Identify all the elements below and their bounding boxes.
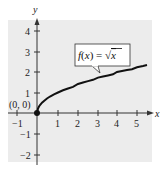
y-tick-label: 3 — [25, 47, 30, 58]
y-tick-label: −1 — [20, 129, 31, 140]
x-tick-label: 2 — [75, 118, 80, 129]
x-axis-label: x — [154, 108, 160, 119]
x-tick-label: 3 — [95, 118, 100, 129]
origin-label: (0, 0) — [9, 99, 31, 111]
sqrt-function-graph: x y −1 1 2 3 4 5 4 3 2 1 −1 −2 — [0, 0, 162, 169]
x-tick-label: −1 — [12, 118, 23, 129]
y-axis-label: y — [32, 4, 38, 15]
function-label: f(x) = √x — [78, 49, 116, 62]
origin-point-marker — [34, 110, 40, 116]
x-tick-label: 5 — [134, 118, 139, 129]
y-tick-label: 2 — [25, 67, 30, 78]
y-tick-label: 1 — [25, 88, 30, 99]
y-tick-label: −2 — [20, 150, 31, 161]
x-tick-label: 4 — [114, 118, 119, 129]
y-tick-label: 4 — [25, 26, 30, 37]
x-tick-label: 1 — [55, 118, 60, 129]
